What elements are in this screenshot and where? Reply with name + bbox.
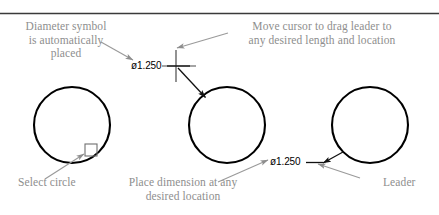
leader-line-middle bbox=[167, 66, 206, 98]
pointer-leader bbox=[318, 164, 360, 178]
dimension-text-right: ø1.250 bbox=[270, 157, 301, 167]
annotation-leader: Leader bbox=[383, 176, 439, 190]
circle-right bbox=[332, 87, 408, 163]
leader-line-right bbox=[306, 152, 343, 163]
circle-left bbox=[34, 87, 110, 163]
annotation-diameter-symbol: Diameter symbol is automatically placed bbox=[12, 20, 120, 61]
diagram-canvas: Diameter symbol is automatically placed … bbox=[0, 0, 439, 215]
circle-middle bbox=[189, 87, 265, 163]
annotation-place-dimension: Place dimension at any desired location bbox=[118, 176, 248, 203]
pointer-move-cursor bbox=[177, 33, 228, 48]
annotation-select-circle: Select circle bbox=[18, 176, 108, 190]
dimension-text-middle: ø1.250 bbox=[131, 61, 162, 71]
annotation-move-cursor: Move cursor to drag leader to any desire… bbox=[222, 20, 422, 47]
